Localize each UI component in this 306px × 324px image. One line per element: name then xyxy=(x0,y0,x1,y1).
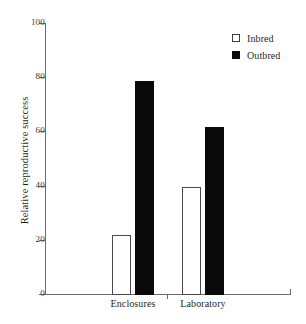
legend-item-inbred: Inbred xyxy=(232,32,304,44)
legend-label-inbred: Inbred xyxy=(247,33,274,44)
category-label-enclosures: Enclosures xyxy=(98,298,168,310)
category-label-laboratory: Laboratory xyxy=(168,298,238,310)
y-axis-title: Relative reproductive success xyxy=(19,71,30,251)
y-tick-100: 100 xyxy=(0,23,45,24)
y-tick-label-0: 0 xyxy=(11,289,45,298)
chart-legend: Inbred Outbred xyxy=(232,32,304,66)
legend-label-outbred: Outbred xyxy=(247,50,280,61)
y-tick-label-100: 100 xyxy=(11,18,45,27)
bar-laboratory-inbred xyxy=(182,187,201,295)
y-axis-line xyxy=(45,23,46,295)
y-tick-0: 0 xyxy=(0,294,45,295)
legend-swatch-filled-square-icon xyxy=(232,51,240,59)
chart-figure: 100 80 60 40 20 0 Relative reproductive … xyxy=(0,0,306,324)
legend-item-outbred: Outbred xyxy=(232,49,304,61)
legend-swatch-open-square-icon xyxy=(232,34,240,42)
bar-enclosures-outbred xyxy=(135,81,154,295)
bar-enclosures-inbred xyxy=(112,235,131,295)
bar-laboratory-outbred xyxy=(205,127,224,295)
x-axis-line xyxy=(45,294,291,295)
x-axis-end-tick xyxy=(290,289,291,295)
